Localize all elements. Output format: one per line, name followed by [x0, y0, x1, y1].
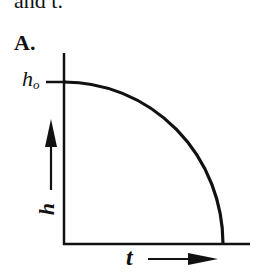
data-curve [64, 82, 223, 244]
y-direction-arrow-icon [45, 119, 57, 190]
chart-plot [0, 0, 258, 277]
x-direction-arrow-icon [148, 253, 218, 265]
